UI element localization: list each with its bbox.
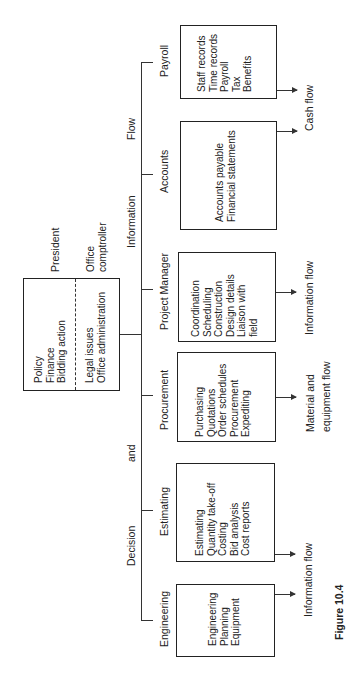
arrow-procurement [276, 397, 296, 398]
dept-label-engineering: Engineering [158, 591, 170, 647]
header-and: and [125, 444, 137, 462]
dept-items-procurement: Purchasing Quotations Order schedules Pr… [194, 364, 252, 437]
arrow-engineering [275, 594, 295, 595]
arrow-accounts [277, 131, 297, 132]
dept-label-project-manager: Project Manager [158, 253, 170, 330]
comptroller-title: Office comptroller [85, 223, 108, 272]
dept-label-payroll: Payroll [158, 45, 170, 77]
president-connector [120, 334, 141, 335]
header-flow: Flow [125, 118, 137, 140]
branch-engineering [141, 620, 153, 621]
dept-items-payroll: Staff records Time records Payroll Tax B… [196, 34, 254, 92]
dept-label-estimating: Estimating [158, 487, 170, 536]
arrow-payroll [277, 90, 297, 91]
branch-estimating [141, 510, 153, 511]
dept-label-procurement: Procurement [158, 370, 170, 430]
president-divider [75, 279, 76, 390]
arrow-project-manager [276, 292, 296, 293]
dept-items-project-manager: Coordination Scheduling Construction Des… [190, 274, 259, 337]
branch-procurement [141, 395, 153, 396]
comptroller-items: Legal issues Office administration [84, 292, 107, 383]
output-label-accounts-payroll: Cash flow [303, 85, 315, 131]
branch-payroll [141, 62, 153, 63]
figure-caption: Figure 10.4 [333, 585, 345, 640]
president-items: Policy Finance Bidding action [33, 320, 68, 383]
header-decision: Decision [125, 526, 137, 566]
dept-items-engineering: Engineering Planning Equipment [207, 593, 242, 646]
trunk-line [141, 62, 142, 620]
dept-items-accounts: Accounts payable Financial statements [214, 130, 237, 222]
branch-accounts [141, 174, 153, 175]
output-label-procurement: Material and equipment flow [302, 361, 334, 432]
header-information: Information [125, 195, 137, 248]
output-label-engineering-estimating: Information flow [302, 543, 314, 617]
arrow-estimating [275, 554, 295, 555]
dept-label-accounts: Accounts [158, 150, 170, 193]
branch-project-manager [141, 289, 153, 290]
president-title: President [49, 228, 61, 272]
output-label-project-manager: Information flow [303, 261, 315, 335]
dept-items-estimating: Estimating Quantity take-off Costing Bid… [194, 483, 252, 556]
